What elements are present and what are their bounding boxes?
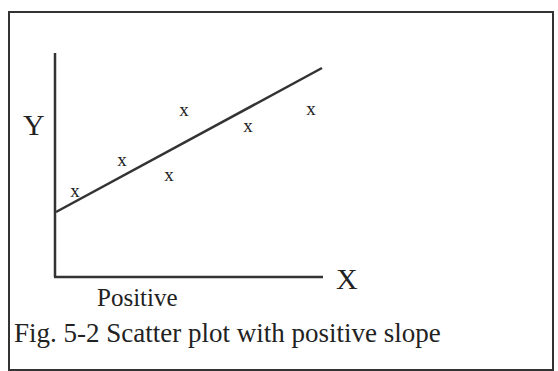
trend-line [56, 68, 322, 212]
data-point: x [179, 99, 189, 120]
data-point: x [70, 180, 80, 201]
data-point: x [164, 164, 174, 185]
x-axis-label: X [336, 262, 358, 296]
data-point: x [117, 149, 127, 170]
chart-subtitle: Positive [97, 284, 178, 312]
data-point: x [243, 115, 253, 136]
data-point: x [306, 98, 316, 119]
y-axis-label: Y [23, 108, 45, 142]
figure-caption: Fig. 5-2 Scatter plot with positive slop… [14, 318, 441, 349]
